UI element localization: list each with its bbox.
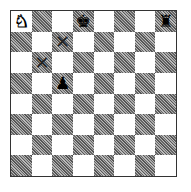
square-e6[interactable] [94,52,115,73]
black-pawn-icon[interactable]: ♟ [55,75,70,92]
square-c2[interactable] [52,135,73,156]
square-d2[interactable] [73,135,94,156]
square-g8[interactable] [135,11,156,32]
square-a5[interactable] [11,73,32,94]
square-a7[interactable] [11,32,32,53]
square-d8[interactable]: ♚ [73,11,94,32]
square-a3[interactable] [11,114,32,135]
square-g3[interactable] [135,114,156,135]
square-c4[interactable] [52,94,73,115]
square-d5[interactable] [73,73,94,94]
square-a4[interactable] [11,94,32,115]
square-f6[interactable] [114,52,135,73]
square-c8[interactable] [52,11,73,32]
cross-mark-icon: ✕ [55,33,70,51]
square-g7[interactable] [135,32,156,53]
square-g2[interactable] [135,135,156,156]
square-b8[interactable] [32,11,53,32]
square-f4[interactable] [114,94,135,115]
square-f7[interactable] [114,32,135,53]
square-a6[interactable] [11,52,32,73]
black-rook-icon[interactable]: ♜ [158,13,173,30]
square-b1[interactable] [32,155,53,176]
square-g4[interactable] [135,94,156,115]
square-g6[interactable] [135,52,156,73]
square-h4[interactable] [155,94,176,115]
square-h7[interactable] [155,32,176,53]
white-knight-icon[interactable]: ♞ [14,13,29,30]
square-h3[interactable] [155,114,176,135]
square-b7[interactable] [32,32,53,53]
square-d6[interactable] [73,52,94,73]
square-f5[interactable] [114,73,135,94]
square-e7[interactable] [94,32,115,53]
square-b2[interactable] [32,135,53,156]
square-d3[interactable] [73,114,94,135]
square-e3[interactable] [94,114,115,135]
square-e2[interactable] [94,135,115,156]
square-c1[interactable] [52,155,73,176]
square-f2[interactable] [114,135,135,156]
black-king-icon[interactable]: ♚ [76,13,91,30]
square-b5[interactable] [32,73,53,94]
square-g1[interactable] [135,155,156,176]
square-c7[interactable]: ✕ [52,32,73,53]
square-h5[interactable] [155,73,176,94]
square-d4[interactable] [73,94,94,115]
square-b3[interactable] [32,114,53,135]
square-g5[interactable] [135,73,156,94]
square-h1[interactable] [155,155,176,176]
square-c6[interactable] [52,52,73,73]
square-f3[interactable] [114,114,135,135]
square-a8[interactable]: ♞ [11,11,32,32]
square-c3[interactable] [52,114,73,135]
square-b4[interactable] [32,94,53,115]
square-h8[interactable]: ♜ [155,11,176,32]
square-f1[interactable] [114,155,135,176]
square-e8[interactable] [94,11,115,32]
square-e1[interactable] [94,155,115,176]
square-f8[interactable] [114,11,135,32]
square-e4[interactable] [94,94,115,115]
square-e5[interactable] [94,73,115,94]
square-a2[interactable] [11,135,32,156]
square-d7[interactable] [73,32,94,53]
square-d1[interactable] [73,155,94,176]
chess-board: ♞♚♜✕✕♟ [10,10,177,177]
square-c5[interactable]: ♟ [52,73,73,94]
cross-mark-icon: ✕ [34,54,49,72]
square-a1[interactable] [11,155,32,176]
square-h6[interactable] [155,52,176,73]
square-h2[interactable] [155,135,176,156]
square-b6[interactable]: ✕ [32,52,53,73]
